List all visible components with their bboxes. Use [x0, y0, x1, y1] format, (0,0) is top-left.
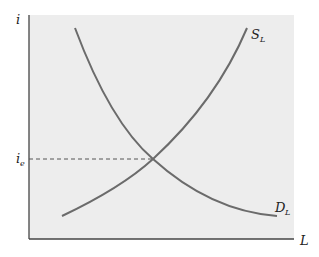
svg-text:L: L	[259, 35, 265, 44]
svg-text:S: S	[251, 27, 260, 42]
svg-text:e: e	[20, 159, 25, 168]
x-axis-label: L	[299, 233, 309, 248]
plot-background	[29, 15, 294, 239]
equilibrium-rate-label: i e	[16, 151, 25, 168]
y-axis-label: i	[16, 12, 20, 27]
loanable-funds-diagram: i L i e S L D L	[0, 0, 319, 257]
svg-text:L: L	[284, 208, 290, 217]
